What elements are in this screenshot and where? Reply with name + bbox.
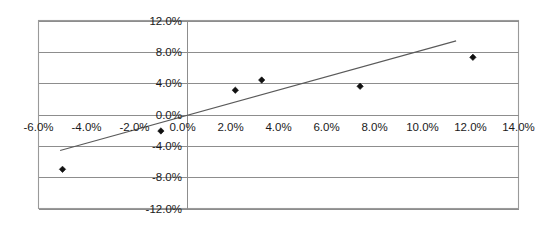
chart-canvas: 12.0%8.0%4.0%0.0%-4.0%-8.0%-12.0% -6.0%-… [0,0,553,227]
y-tick-label: -12.0% [146,203,182,215]
x-axis-tick-labels: -6.0%-4.0%-2.0%0.0%2.0%4.0%6.0%8.0%10.0%… [23,121,534,133]
x-tick-label: 6.0% [313,121,339,133]
x-tick-label: 2.0% [217,121,243,133]
chart-background [0,0,553,227]
y-tick-label: 12.0% [149,15,182,27]
x-tick-label: 0.0% [169,121,195,133]
x-tick-label: 14.0% [502,121,535,133]
y-tick-label: -4.0% [152,140,182,152]
x-tick-label: 4.0% [265,121,291,133]
y-tick-label: 0.0% [156,109,182,121]
y-tick-label: -8.0% [152,171,182,183]
y-tick-label: 8.0% [156,46,182,58]
y-tick-label: 4.0% [156,77,182,89]
x-tick-label: 12.0% [454,121,487,133]
scatter-chart: 12.0%8.0%4.0%0.0%-4.0%-8.0%-12.0% -6.0%-… [0,0,553,227]
x-tick-label: -6.0% [23,121,53,133]
x-tick-label: 10.0% [406,121,439,133]
x-tick-label: -4.0% [71,121,101,133]
x-tick-label: 8.0% [361,121,387,133]
x-tick-label: -2.0% [119,121,149,133]
